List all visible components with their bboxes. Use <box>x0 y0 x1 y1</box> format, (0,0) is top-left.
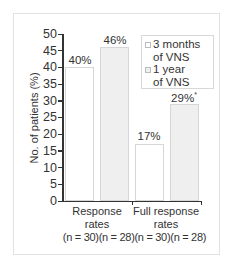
y-tick-label: 40 <box>35 61 57 73</box>
bar-value-label: 46% <box>95 34 135 46</box>
bar-response-1year <box>100 47 129 201</box>
bar-value-label: 40% <box>60 54 100 66</box>
y-tick-label: 35 <box>35 78 57 90</box>
y-tick-label: 10 <box>35 162 57 174</box>
y-tick <box>58 134 62 135</box>
y-tick-label: 20 <box>35 128 57 140</box>
y-tick <box>58 67 62 68</box>
category-line: rates <box>62 218 132 231</box>
legend-label-1year-line1: 1 year <box>153 63 185 76</box>
significance-mark: * <box>194 91 197 98</box>
category-label-full-response: Full response rates <box>130 205 202 231</box>
legend-label-1year-line2: of VNS <box>153 76 189 89</box>
legend-swatch-1year <box>145 67 151 73</box>
y-tick <box>58 184 62 185</box>
bar-full-response-3months <box>135 144 164 201</box>
y-tick-label: 0 <box>35 195 57 207</box>
y-tick-label: 25 <box>35 111 57 123</box>
y-tick-label: 45 <box>35 45 57 57</box>
category-label-response: Response rates <box>62 205 132 231</box>
y-tick <box>58 201 62 202</box>
sample-size-labels: (n = 30)(n = 28)(n = 30)(n = 28) <box>62 231 207 243</box>
y-tick-label: 15 <box>35 145 57 157</box>
y-tick <box>58 167 62 168</box>
y-tick <box>58 50 62 51</box>
legend-label-3months-line1: 3 months <box>153 38 200 51</box>
category-line: Full response <box>130 205 202 218</box>
y-tick-label: 30 <box>35 95 57 107</box>
y-tick-label: 50 <box>35 28 57 40</box>
category-line: rates <box>130 218 202 231</box>
bar-full-response-1year <box>170 104 199 201</box>
y-tick <box>58 84 62 85</box>
bar-value-text: 29% <box>171 92 194 104</box>
legend-swatch-3months <box>145 42 151 48</box>
y-tick <box>58 34 62 35</box>
y-tick-label: 5 <box>35 178 57 190</box>
legend: 3 months of VNS 1 year of VNS <box>141 35 214 89</box>
y-tick <box>58 150 62 151</box>
y-tick <box>58 117 62 118</box>
category-line: Response <box>62 205 132 218</box>
bar-value-label: 17% <box>129 130 169 142</box>
y-tick <box>58 100 62 101</box>
bar-value-label: 29%* <box>164 91 204 104</box>
bar-response-3months <box>65 67 94 201</box>
